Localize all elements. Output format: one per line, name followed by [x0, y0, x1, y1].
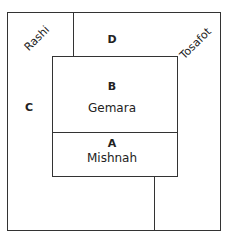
bottom-divider-line	[154, 176, 155, 231]
region-c-letter: C	[19, 101, 39, 114]
region-a-letter: A	[102, 137, 122, 150]
region-a-name: Mishnah	[72, 151, 152, 165]
region-d-letter: D	[102, 33, 122, 46]
region-b-name: Gemara	[72, 101, 152, 115]
gemara-mishnah-divider	[52, 132, 178, 133]
top-divider-line	[73, 12, 74, 57]
region-b-letter: B	[102, 80, 122, 93]
